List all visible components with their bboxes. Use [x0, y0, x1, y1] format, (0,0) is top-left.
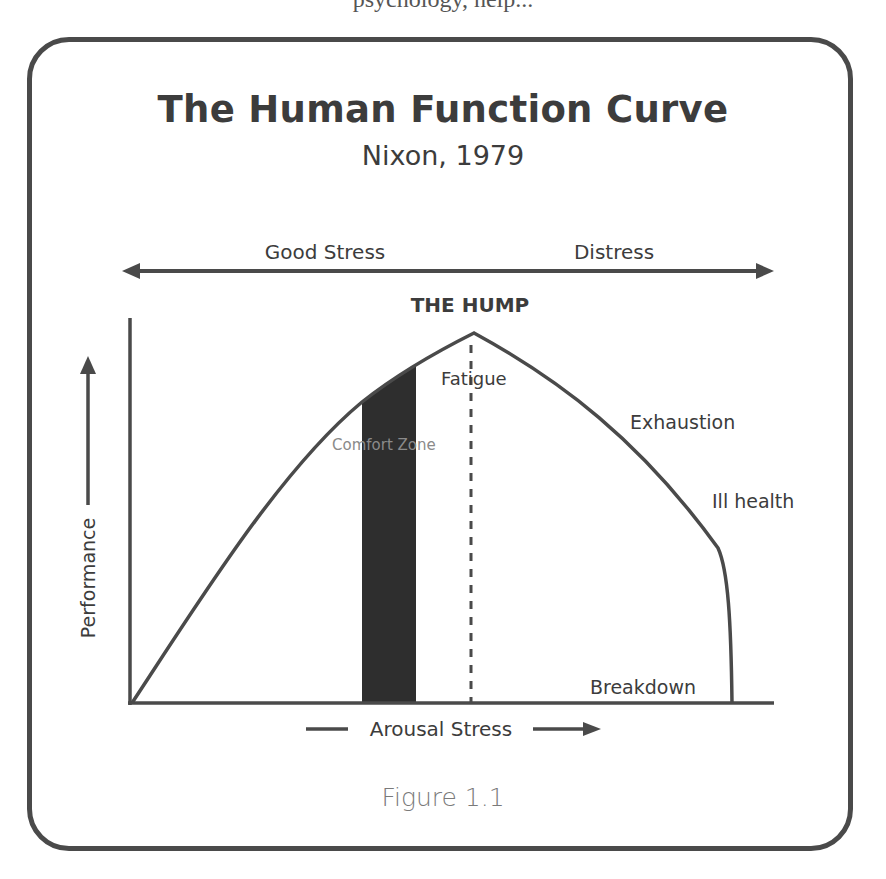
- breakdown-label: Breakdown: [590, 676, 696, 698]
- performance-label: Performance: [77, 518, 99, 638]
- fatigue-label: Fatigue: [441, 368, 507, 389]
- exhaustion-label: Exhaustion: [630, 411, 735, 433]
- comfort-zone-label: Comfort Zone: [332, 436, 436, 454]
- the-hump-label: THE HUMP: [411, 293, 530, 317]
- ill-health-label: Ill health: [712, 490, 794, 512]
- function-curve-line: [132, 333, 732, 703]
- arrow-right-icon: [756, 263, 774, 279]
- function-curve-diagram: Good Stress Distress THE HUMP Fatigue Co…: [0, 0, 886, 879]
- arousal-stress-label: Arousal Stress: [370, 717, 512, 741]
- stress-axis-arrow: [122, 263, 774, 279]
- distress-label: Distress: [574, 240, 654, 264]
- performance-axis-label-group: Performance: [77, 356, 99, 638]
- figure-caption: Figure 1.1: [0, 783, 886, 812]
- arousal-stress-label-group: Arousal Stress: [306, 717, 601, 741]
- comfort-zone-band: [362, 320, 416, 703]
- arrow-right-small-icon: [583, 722, 601, 736]
- arrow-left-icon: [122, 263, 140, 279]
- good-stress-label: Good Stress: [265, 240, 386, 264]
- arrow-up-icon: [80, 356, 96, 374]
